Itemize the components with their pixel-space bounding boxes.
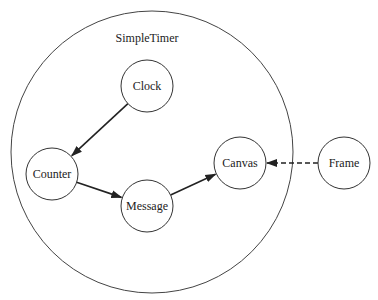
node-counter-label: Counter: [33, 167, 72, 181]
node-frame-label: Frame: [329, 156, 360, 170]
node-frame[interactable]: Frame: [318, 137, 370, 189]
container-label: SimpleTimer: [116, 31, 179, 45]
node-message[interactable]: Message: [121, 180, 173, 232]
edge-clock-to-counter: [72, 104, 128, 156]
node-canvas-label: Canvas: [222, 156, 258, 170]
node-canvas[interactable]: Canvas: [214, 137, 266, 189]
edge-message-to-canvas: [171, 174, 216, 195]
node-counter[interactable]: Counter: [26, 148, 78, 200]
simpletimer-diagram: SimpleTimer Clock Counter Message Canvas…: [0, 0, 378, 300]
node-message-label: Message: [126, 199, 168, 213]
node-clock[interactable]: Clock: [121, 60, 173, 112]
nodes-layer: Clock Counter Message Canvas Frame: [26, 60, 370, 232]
edge-counter-to-message: [77, 182, 122, 197]
node-clock-label: Clock: [133, 79, 162, 93]
edges-layer: [72, 104, 318, 198]
